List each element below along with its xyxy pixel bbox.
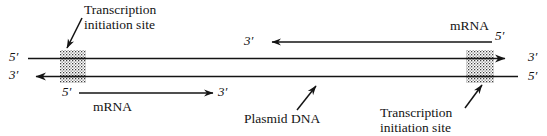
three-prime-upper-mrna-label: 3′: [244, 34, 253, 48]
plasmid-transcription-diagram: Transcription initiation site 5′ 3′ 3′ 5…: [0, 0, 547, 136]
five-prime-upper-mrna-label: 5′: [495, 29, 504, 43]
three-prime-right-top-label: 3′: [528, 50, 537, 64]
mrna-label-top: mRNA: [450, 19, 489, 34]
right-stipple-rect: [466, 50, 494, 83]
five-prime-right-bottom-label: 5′: [528, 69, 537, 83]
right-initiation-site-leader: [465, 85, 482, 108]
left-initiation-site-leader: [67, 18, 82, 48]
left-initiation-site-box: [60, 50, 86, 83]
left-leader-arrow: [67, 18, 82, 48]
three-prime-left-bottom-label: 3′: [9, 68, 18, 82]
five-prime-lower-mrna-label: 5′: [62, 85, 71, 99]
transcription-initiation-site-label-bottom: Transcription initiation site: [380, 105, 452, 135]
right-leader-arrow: [465, 85, 482, 108]
mrna-label-bottom: mRNA: [93, 100, 132, 115]
right-initiation-site-box: [466, 50, 494, 83]
transcription-initiation-site-label-top: Transcription initiation site: [84, 2, 156, 32]
left-stipple-rect: [60, 50, 86, 83]
plasmid-dna-leader: [297, 86, 316, 110]
plasmid-leader-arrow: [297, 86, 316, 110]
plasmid-dna-label: Plasmid DNA: [244, 112, 320, 127]
three-prime-lower-mrna-label: 3′: [218, 85, 227, 99]
five-prime-left-top-label: 5′: [9, 50, 18, 64]
